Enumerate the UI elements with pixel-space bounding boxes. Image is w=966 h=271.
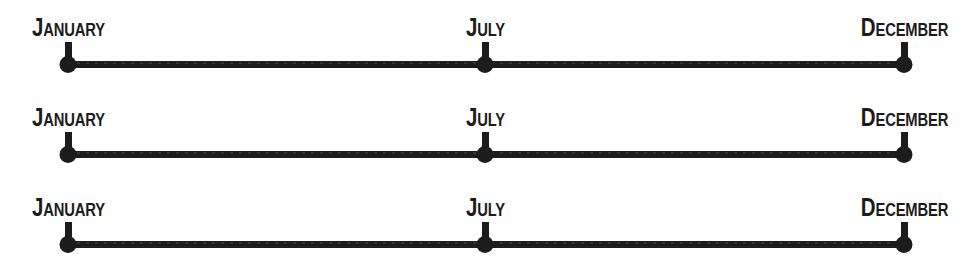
timeline-node[interactable]: JULY: [485, 199, 486, 271]
timeline-month-label: DECEMBER: [851, 195, 957, 220]
label-small-caps: ECEMBER: [875, 20, 948, 40]
label-initial-cap: J: [466, 103, 477, 131]
timeline-node-dot: [60, 146, 77, 163]
label-small-caps: ANUARY: [43, 20, 105, 40]
label-small-caps: ANUARY: [43, 200, 105, 220]
timeline-node-dot: [477, 146, 494, 163]
label-small-caps: ECEMBER: [875, 200, 948, 220]
timeline-node-dot: [477, 236, 494, 253]
timeline-node[interactable]: JULY: [485, 19, 486, 109]
timeline-node[interactable]: JULY: [485, 109, 486, 199]
timeline-node-dot: [60, 56, 77, 73]
timeline-node-dot: [60, 236, 77, 253]
label-initial-cap: J: [466, 193, 477, 221]
timeline-group: JANUARYJULYDECEMBERJANUARYJULYDECEMBERJA…: [0, 0, 966, 271]
timeline-node[interactable]: JANUARY: [68, 19, 69, 109]
timeline-month-label: JANUARY: [24, 105, 113, 130]
timeline-row: JANUARYJULYDECEMBER: [0, 109, 966, 199]
timeline-month-label: JANUARY: [24, 195, 113, 220]
timeline-month-label: DECEMBER: [851, 105, 957, 130]
timeline-month-label: DECEMBER: [851, 15, 957, 40]
timeline-month-label: JANUARY: [24, 15, 113, 40]
label-small-caps: ULY: [477, 110, 505, 130]
timeline-row: JANUARYJULYDECEMBER: [0, 199, 966, 271]
label-small-caps: ANUARY: [43, 110, 105, 130]
label-small-caps: ULY: [477, 200, 505, 220]
timeline-node[interactable]: DECEMBER: [904, 199, 905, 271]
label-small-caps: ULY: [477, 20, 505, 40]
label-initial-cap: J: [32, 193, 43, 221]
label-initial-cap: J: [32, 103, 43, 131]
timeline-node[interactable]: JANUARY: [68, 199, 69, 271]
timeline-node[interactable]: JANUARY: [68, 109, 69, 199]
timeline-node-dot: [477, 56, 494, 73]
timeline-node-dot: [896, 236, 913, 253]
timeline-node-dot: [896, 146, 913, 163]
timeline-node-dot: [896, 56, 913, 73]
timeline-node[interactable]: DECEMBER: [904, 19, 905, 109]
label-initial-cap: D: [860, 103, 875, 131]
timeline-month-label: JULY: [461, 105, 508, 130]
label-initial-cap: D: [860, 193, 875, 221]
label-initial-cap: D: [860, 13, 875, 41]
label-initial-cap: J: [466, 13, 477, 41]
label-initial-cap: J: [32, 13, 43, 41]
timeline-month-label: JULY: [461, 195, 508, 220]
label-small-caps: ECEMBER: [875, 110, 948, 130]
timeline-row: JANUARYJULYDECEMBER: [0, 19, 966, 109]
timeline-node[interactable]: DECEMBER: [904, 109, 905, 199]
timeline-month-label: JULY: [461, 15, 508, 40]
